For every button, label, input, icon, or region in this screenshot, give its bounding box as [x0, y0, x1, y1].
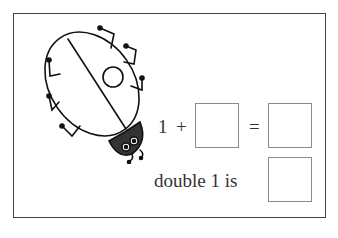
left-operand: 1 — [158, 117, 168, 136]
addend-answer-box[interactable] — [195, 103, 239, 148]
sum-answer-box[interactable] — [268, 103, 312, 148]
equals-sign: = — [249, 117, 260, 136]
double-answer-box[interactable] — [268, 157, 312, 202]
double-prompt-label: double 1 is — [154, 171, 237, 190]
plus-sign: + — [176, 117, 187, 136]
ladybug-icon — [14, 14, 164, 164]
